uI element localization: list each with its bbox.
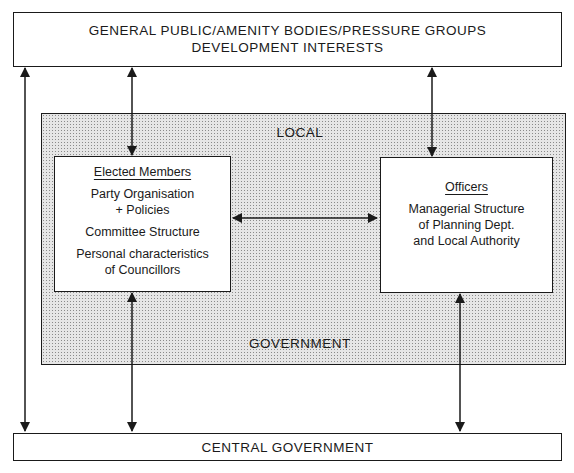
officers-item: Managerial Structure of Planning Dept. a…: [381, 201, 552, 249]
general-public-box: GENERAL PUBLIC/AMENITY BODIES/PRESSURE G…: [13, 12, 562, 67]
officers-box: Officers Managerial Structure of Plannin…: [380, 157, 553, 293]
elected-members-item: Committee Structure: [55, 224, 230, 240]
elected-members-heading: Elected Members: [94, 164, 191, 180]
central-government-label: CENTRAL GOVERNMENT: [14, 434, 561, 455]
elected-members-item: Personal characteristics of Councillors: [55, 246, 230, 278]
government-label: GOVERNMENT: [230, 336, 370, 351]
general-public-line1: GENERAL PUBLIC/AMENITY BODIES/PRESSURE G…: [14, 22, 561, 39]
central-government-box: CENTRAL GOVERNMENT: [13, 433, 562, 461]
general-public-line2: DEVELOPMENT INTERESTS: [14, 39, 561, 56]
officers-heading: Officers: [445, 179, 488, 195]
elected-members-item: Party Organisation + Policies: [55, 186, 230, 218]
elected-members-box: Elected Members Party Organisation + Pol…: [54, 156, 231, 292]
local-label: LOCAL: [260, 125, 340, 140]
